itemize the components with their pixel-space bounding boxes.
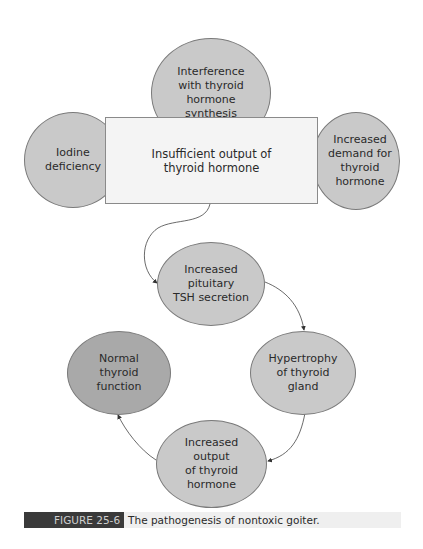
figure-label: FIGURE 25-6 <box>24 512 124 528</box>
node-increased-demand: Increased demand for thyroid hormone <box>312 112 400 210</box>
node-insufficient-label: Insufficient output of thyroid hormone <box>152 147 272 175</box>
node-hypertrophy: Hypertrophy of thyroid gland <box>250 331 356 415</box>
node-tsh-label: Increased pituitary TSH secretion <box>173 263 249 305</box>
node-demand-label: Increased demand for thyroid hormone <box>328 133 392 189</box>
node-normal-label: Normal thyroid function <box>97 352 142 394</box>
node-iodine-label: Iodine deficiency <box>45 146 101 174</box>
node-hypertrophy-label: Hypertrophy of thyroid gland <box>269 352 338 394</box>
node-increased-output: Increased output of thyroid hormone <box>156 420 267 508</box>
figure-caption: FIGURE 25-6 The pathogenesis of nontoxic… <box>24 512 401 528</box>
node-output-label: Increased output of thyroid hormone <box>185 436 239 492</box>
node-normal-function: Normal thyroid function <box>67 331 171 415</box>
node-pituitary-tsh: Increased pituitary TSH secretion <box>157 242 265 326</box>
node-interference-label: Interference with thyroid hormone synthe… <box>177 65 244 121</box>
figure-caption-text: The pathogenesis of nontoxic goiter. <box>128 514 320 526</box>
node-insufficient-output: Insufficient output of thyroid hormone <box>105 117 318 204</box>
